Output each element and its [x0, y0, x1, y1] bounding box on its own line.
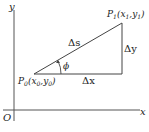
angle-phi-label: ϕ: [63, 61, 69, 71]
x-axis-label: x: [140, 106, 146, 117]
y-axis-label: y: [8, 1, 15, 12]
diagram-canvas: y x O Δs Δy Δx ϕ P1(x1,y1) P0(x0,y0): [0, 0, 149, 132]
delta-y-label: Δy: [124, 43, 137, 54]
origin-label: O: [3, 112, 11, 123]
p1-label: P1(x1,y1): [106, 9, 145, 20]
delta-s-label: Δs: [68, 37, 80, 48]
hypotenuse-delta-s: [34, 23, 122, 74]
delta-x-label: Δx: [82, 75, 95, 86]
p0-label: P0(x0,y0): [17, 76, 56, 87]
